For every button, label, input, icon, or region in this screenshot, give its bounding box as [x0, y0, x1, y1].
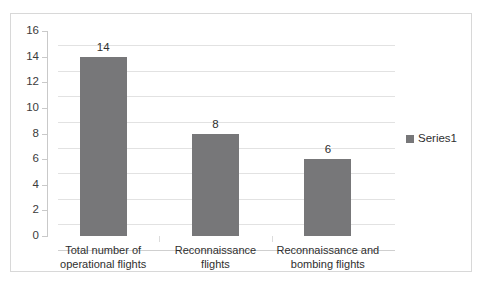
y-tick-mark	[42, 57, 47, 58]
category-label-line: flights	[159, 257, 271, 271]
y-tick-mark	[42, 159, 47, 160]
y-axis-tick-labels: 1614121086420	[8, 0, 39, 290]
y-tick-mark	[42, 185, 47, 186]
y-tick-label: 4	[11, 179, 39, 191]
bar-value-label: 14	[73, 42, 133, 54]
y-tick-label: 2	[11, 205, 39, 217]
category-label-line: operational flights	[47, 257, 159, 271]
y-tick-mark	[42, 210, 47, 211]
category-separator	[272, 236, 273, 242]
category-label: Reconnaissance andbombing flights	[272, 243, 384, 271]
y-tick-mark	[42, 236, 47, 237]
y-tick-mark	[42, 134, 47, 135]
legend-series-label: Series1	[418, 133, 457, 145]
category-label-line: bombing flights	[272, 257, 384, 271]
y-tick-label: 16	[11, 25, 39, 37]
category-label-line: Reconnaissance	[159, 243, 271, 257]
y-tick-mark	[42, 31, 47, 32]
bar-value-label: 8	[186, 119, 246, 131]
bar	[304, 159, 351, 236]
y-tick-label: 8	[11, 128, 39, 140]
y-axis-line	[47, 31, 48, 237]
y-tick-label: 14	[11, 51, 39, 63]
category-separator	[159, 236, 160, 242]
legend-square-icon	[406, 135, 414, 143]
bar	[80, 57, 127, 236]
chart-legend: Series1	[406, 133, 457, 145]
y-tick-mark	[42, 82, 47, 83]
category-label-line: Reconnaissance and	[272, 243, 384, 257]
category-label: Total number ofoperational flights	[47, 243, 159, 271]
category-label: Reconnaissanceflights	[159, 243, 271, 271]
y-tick-mark	[42, 108, 47, 109]
y-tick-label: 10	[11, 102, 39, 114]
y-tick-label: 6	[11, 153, 39, 165]
category-label-line: Total number of	[47, 243, 159, 257]
y-tick-label: 0	[11, 230, 39, 242]
bar-value-label: 6	[298, 144, 358, 156]
y-tick-label: 12	[11, 77, 39, 89]
bar	[192, 134, 239, 237]
